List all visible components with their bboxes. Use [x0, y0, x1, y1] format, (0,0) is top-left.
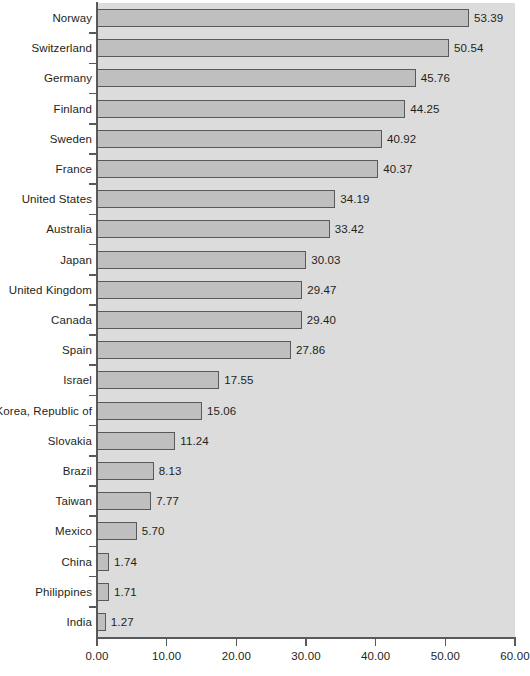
- bar-value-label: 30.03: [311, 254, 340, 266]
- x-axis-tick-label: 60.00: [500, 650, 529, 662]
- category-label: India: [67, 616, 92, 628]
- category-label: Norway: [52, 12, 92, 24]
- bar-row: Germany45.76: [0, 63, 529, 93]
- category-label: Canada: [51, 314, 92, 326]
- category-label: Slovakia: [48, 435, 92, 447]
- category-label: Spain: [62, 344, 92, 356]
- bar-row: Philippines1.71: [0, 577, 529, 607]
- category-label: France: [56, 163, 92, 175]
- bar: [97, 583, 109, 601]
- bar-value-label: 45.76: [421, 72, 450, 84]
- bar-row: Norway53.39: [0, 3, 529, 33]
- bar-value-label: 40.37: [383, 163, 412, 175]
- bar-row: China1.74: [0, 546, 529, 576]
- bar: [97, 160, 378, 178]
- x-axis-tick-label: 30.00: [291, 650, 320, 662]
- x-axis-tick: [375, 638, 377, 646]
- bar-value-label: 15.06: [207, 405, 236, 417]
- bar-value-label: 17.55: [224, 374, 253, 386]
- category-label: Israel: [63, 374, 92, 386]
- x-axis-tick-label: 10.00: [152, 650, 181, 662]
- bar: [97, 341, 291, 359]
- category-label: Australia: [46, 223, 92, 235]
- bar-row: Israel17.55: [0, 365, 529, 395]
- bar: [97, 100, 405, 118]
- bar: [97, 402, 202, 420]
- x-axis-tick: [236, 638, 238, 646]
- x-axis-tick-label: 0.00: [86, 650, 109, 662]
- bar: [97, 9, 469, 27]
- category-label: United States: [22, 193, 92, 205]
- bar-value-label: 27.86: [296, 344, 325, 356]
- bar: [97, 462, 154, 480]
- bar-value-label: 53.39: [474, 12, 503, 24]
- bar-row: India1.27: [0, 607, 529, 637]
- bar-value-label: 7.77: [156, 495, 179, 507]
- bar: [97, 190, 335, 208]
- bar-row: Mexico5.70: [0, 516, 529, 546]
- category-label: Taiwan: [56, 495, 92, 507]
- bar-row: Sweden40.92: [0, 124, 529, 154]
- category-label: Japan: [60, 254, 92, 266]
- bar-value-label: 8.13: [159, 465, 182, 477]
- category-label: China: [61, 556, 92, 568]
- x-axis-tick: [514, 638, 516, 646]
- bar-row: Taiwan7.77: [0, 486, 529, 516]
- bar-value-label: 33.42: [335, 223, 364, 235]
- bar-row: Spain27.86: [0, 335, 529, 365]
- bar: [97, 281, 302, 299]
- bar: [97, 69, 416, 87]
- bar-rows: Norway53.39Switzerland50.54Germany45.76F…: [0, 0, 529, 640]
- bar: [97, 492, 151, 510]
- bar-value-label: 29.47: [307, 284, 336, 296]
- category-label: Sweden: [50, 133, 92, 145]
- x-axis-tick-label: 20.00: [222, 650, 251, 662]
- bar-row: Finland44.25: [0, 94, 529, 124]
- x-axis-tick-label: 50.00: [431, 650, 460, 662]
- bar-row: France40.37: [0, 154, 529, 184]
- bar: [97, 371, 219, 389]
- bar: [97, 251, 306, 269]
- bar-value-label: 44.25: [410, 103, 439, 115]
- bar-row: United States34.19: [0, 184, 529, 214]
- bar: [97, 432, 175, 450]
- bar: [97, 311, 302, 329]
- category-label: Mexico: [55, 525, 92, 537]
- bar: [97, 553, 109, 571]
- bar-row: Australia33.42: [0, 214, 529, 244]
- bar-row: Japan30.03: [0, 245, 529, 275]
- category-label: United Kingdom: [9, 284, 92, 296]
- x-axis-tick-label: 40.00: [361, 650, 390, 662]
- category-label: Korea, Republic of: [0, 405, 92, 417]
- category-label: Switzerland: [31, 42, 92, 54]
- bar-value-label: 1.71: [114, 586, 137, 598]
- bar-value-label: 5.70: [142, 525, 165, 537]
- category-label: Germany: [44, 72, 92, 84]
- bar-value-label: 29.40: [307, 314, 336, 326]
- bar-row: United Kingdom29.47: [0, 275, 529, 305]
- bar-row: Switzerland50.54: [0, 33, 529, 63]
- x-axis-tick: [166, 638, 168, 646]
- bar: [97, 220, 330, 238]
- bar-value-label: 34.19: [340, 193, 369, 205]
- x-axis-tick: [445, 638, 447, 646]
- category-label: Finland: [54, 103, 92, 115]
- x-axis-tick: [96, 638, 98, 646]
- bar: [97, 613, 106, 631]
- bar-row: Brazil8.13: [0, 456, 529, 486]
- bar-value-label: 11.24: [180, 435, 208, 447]
- bar-value-label: 1.74: [114, 556, 137, 568]
- bar-row: Korea, Republic of15.06: [0, 395, 529, 425]
- category-label: Brazil: [63, 465, 92, 477]
- bar-value-label: 40.92: [387, 133, 416, 145]
- bar-row: Canada29.40: [0, 305, 529, 335]
- category-label: Philippines: [35, 586, 92, 598]
- bar-value-label: 50.54: [454, 42, 483, 54]
- bar-row: Slovakia11.24: [0, 426, 529, 456]
- bar: [97, 130, 382, 148]
- bar-value-label: 1.27: [111, 616, 134, 628]
- x-axis-tick: [305, 638, 307, 646]
- bar: [97, 522, 137, 540]
- bar: [97, 39, 449, 57]
